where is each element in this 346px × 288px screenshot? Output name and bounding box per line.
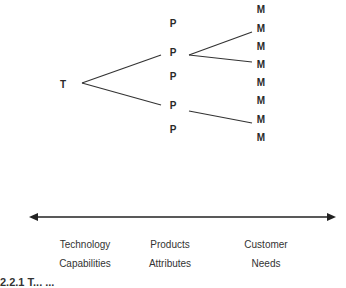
need-node-1: M	[257, 5, 265, 15]
product-node-5: P	[170, 125, 177, 135]
edge-p4-m7	[189, 111, 252, 123]
axis-label-technology: Technology	[60, 240, 111, 250]
axis-label-customer: Customer	[244, 240, 287, 250]
axis-label-products: Products	[150, 240, 189, 250]
need-node-3: M	[257, 42, 265, 52]
axis-double-arrow	[29, 213, 336, 221]
need-node-8: M	[257, 133, 265, 143]
edge-p2-m2	[189, 32, 252, 55]
edge-t-p2	[82, 55, 161, 83]
axis-label-needs: Needs	[252, 259, 281, 269]
product-node-3: P	[170, 72, 177, 82]
technology-node: T	[60, 80, 66, 90]
edge-p2-m4	[189, 55, 252, 62]
axis-label-attributes: Attributes	[149, 259, 191, 269]
axis-label-capabilities: Capabilities	[59, 259, 111, 269]
edge-t-p4	[82, 83, 161, 105]
product-node-2: P	[170, 48, 177, 58]
product-node-4: P	[170, 101, 177, 111]
need-node-5: M	[257, 78, 265, 88]
product-node-1: P	[170, 19, 177, 29]
figure-caption-cutoff: 2.2.1 T... ...	[0, 276, 54, 288]
need-node-4: M	[257, 60, 265, 70]
need-node-2: M	[257, 24, 265, 34]
need-node-7: M	[257, 115, 265, 125]
need-node-6: M	[257, 96, 265, 106]
